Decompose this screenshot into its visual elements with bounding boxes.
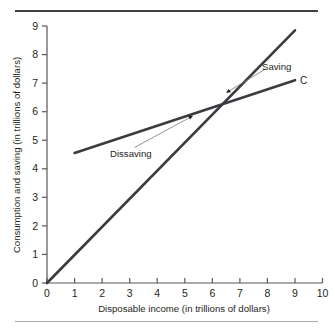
y-tick-label: 4 xyxy=(32,162,38,174)
series-label-c: C xyxy=(300,75,307,86)
x-tick-label: 7 xyxy=(237,287,243,299)
x-tick-label: 8 xyxy=(264,287,270,299)
y-tick-label: 2 xyxy=(32,220,38,232)
x-axis-title: Disposable income (in trillions of dolla… xyxy=(98,303,270,314)
x-tick-labels: 0 1 2 3 4 5 6 7 8 9 10 xyxy=(44,287,328,299)
annotation-label-dissaving: Dissaving xyxy=(110,148,152,159)
annotation-label-saving: Saving xyxy=(262,61,291,72)
series-line-45-degree xyxy=(47,30,295,283)
y-tick-label: 6 xyxy=(32,105,38,117)
y-axis-ticks xyxy=(42,26,47,283)
line-chart: 0 1 2 3 4 5 6 7 8 9 0 1 2 3 4 5 6 7 8 9 … xyxy=(0,0,335,328)
y-tick-label: 0 xyxy=(32,277,38,289)
x-tick-label: 10 xyxy=(317,287,329,299)
x-tick-label: 2 xyxy=(99,287,105,299)
x-tick-label: 9 xyxy=(292,287,298,299)
y-tick-label: 8 xyxy=(32,48,38,60)
x-tick-label: 0 xyxy=(44,287,50,299)
x-tick-label: 5 xyxy=(182,287,188,299)
y-tick-label: 9 xyxy=(32,20,38,32)
x-axis-ticks xyxy=(47,278,323,283)
figure-container: 0 1 2 3 4 5 6 7 8 9 0 1 2 3 4 5 6 7 8 9 … xyxy=(0,0,335,328)
y-tick-label: 1 xyxy=(32,248,38,260)
x-tick-label: 1 xyxy=(72,287,78,299)
y-tick-label: 3 xyxy=(32,191,38,203)
saving-leader-line xyxy=(227,69,266,93)
x-tick-label: 4 xyxy=(154,287,160,299)
y-tick-label: 7 xyxy=(32,77,38,89)
y-axis-title: Consumption and saving (in trillions of … xyxy=(11,57,22,253)
x-tick-label: 3 xyxy=(127,287,133,299)
y-tick-label: 5 xyxy=(32,134,38,146)
x-tick-label: 6 xyxy=(209,287,215,299)
y-tick-labels: 0 1 2 3 4 5 6 7 8 9 xyxy=(32,20,38,289)
